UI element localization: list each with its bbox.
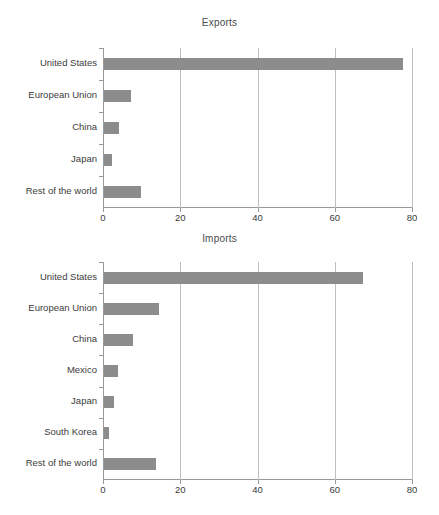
y-axis-category-label: China bbox=[0, 121, 103, 132]
bar bbox=[104, 154, 112, 166]
y-axis-tick bbox=[99, 387, 103, 388]
gridline bbox=[335, 262, 336, 480]
gridline bbox=[180, 48, 181, 208]
chart-title-imports: Imports bbox=[0, 233, 439, 244]
y-axis-tick bbox=[99, 80, 103, 81]
y-axis-category-label: Rest of the world bbox=[0, 457, 103, 468]
y-axis-category-label: Rest of the world bbox=[0, 185, 103, 196]
y-axis-category-label: South Korea bbox=[0, 426, 103, 437]
chart-title-exports: Exports bbox=[0, 17, 439, 28]
y-axis-category-label: Japan bbox=[0, 395, 103, 406]
y-axis-tick bbox=[99, 324, 103, 325]
y-axis-tick bbox=[99, 48, 103, 49]
y-axis-category-label: Japan bbox=[0, 153, 103, 164]
bar bbox=[104, 334, 133, 346]
y-axis-tick bbox=[99, 262, 103, 263]
bar bbox=[104, 186, 141, 198]
bar bbox=[104, 272, 363, 284]
bar bbox=[104, 458, 156, 470]
y-axis-tick bbox=[99, 449, 103, 450]
gridline bbox=[258, 48, 259, 208]
y-axis-category-label: United States bbox=[0, 271, 103, 282]
gridline bbox=[412, 48, 413, 208]
plot-area-exports: 020406080United StatesEuropean UnionChin… bbox=[103, 48, 412, 208]
y-axis-category-label: European Union bbox=[0, 89, 103, 100]
bar bbox=[104, 365, 118, 377]
gridline bbox=[180, 262, 181, 480]
y-axis-tick bbox=[99, 355, 103, 356]
bar bbox=[104, 396, 114, 408]
x-axis-tick-label: 0 bbox=[100, 484, 105, 495]
y-axis-tick bbox=[99, 144, 103, 145]
y-axis-category-label: China bbox=[0, 333, 103, 344]
x-axis-tick-label: 40 bbox=[252, 212, 263, 223]
y-axis-category-label: Mexico bbox=[0, 364, 103, 375]
y-axis-category-label: United States bbox=[0, 57, 103, 68]
bar bbox=[104, 58, 403, 70]
x-axis-tick-label: 20 bbox=[175, 212, 186, 223]
x-axis-tick-label: 20 bbox=[175, 484, 186, 495]
y-axis-tick bbox=[99, 293, 103, 294]
plot-area-imports: 020406080United StatesEuropean UnionChin… bbox=[103, 262, 412, 480]
gridline bbox=[335, 48, 336, 208]
chart-panel-imports: Imports 020406080United StatesEuropean U… bbox=[0, 230, 439, 515]
x-axis-tick-label: 60 bbox=[329, 212, 340, 223]
y-axis-tick bbox=[99, 112, 103, 113]
x-axis-tick-label: 60 bbox=[329, 484, 340, 495]
gridline bbox=[258, 262, 259, 480]
y-axis-tick bbox=[99, 176, 103, 177]
bar bbox=[104, 427, 109, 439]
x-axis-tick-label: 80 bbox=[407, 212, 418, 223]
chart-panel-exports: Exports 020406080United StatesEuropean U… bbox=[0, 0, 439, 230]
y-axis-tick bbox=[99, 418, 103, 419]
x-axis-tick-label: 0 bbox=[100, 212, 105, 223]
x-axis-tick-label: 40 bbox=[252, 484, 263, 495]
x-axis-tick-label: 80 bbox=[407, 484, 418, 495]
bar bbox=[104, 122, 119, 134]
gridline bbox=[412, 262, 413, 480]
bar bbox=[104, 90, 131, 102]
y-axis-category-label: European Union bbox=[0, 302, 103, 313]
bar bbox=[104, 303, 159, 315]
